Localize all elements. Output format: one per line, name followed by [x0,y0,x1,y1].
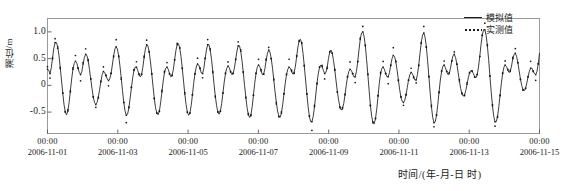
legend-label-measured: 实测值 [486,24,513,36]
x-tick-time: 00:00 [8,136,88,147]
legend-label-simulated: 模拟值 [486,12,513,24]
x-tick-label: 00:002006-11-09 [289,136,369,158]
x-tick-label: 00:002006-11-07 [218,136,298,158]
x-tick-date: 2006-11-07 [218,147,298,158]
x-tick-time: 00:00 [500,136,568,147]
x-tick-date: 2006-11-01 [8,147,88,158]
x-tick-date: 2006-11-13 [429,147,509,158]
x-tick-label: 00:002006-11-15 [500,136,568,158]
x-tick-date: 2006-11-03 [78,147,158,158]
x-tick-time: 00:00 [218,136,298,147]
legend-dotted-line-icon [464,25,482,35]
x-tick-date: 2006-11-11 [359,147,439,158]
x-tick-label: 00:002006-11-05 [148,136,228,158]
tide-level-chart: 潮位/m 1.00.50-0.5 00:002006-11-0100:00200… [0,0,568,191]
x-tick-date: 2006-11-15 [500,147,568,158]
x-tick-label: 00:002006-11-03 [78,136,158,158]
x-tick-label: 00:002006-11-13 [429,136,509,158]
x-tick-date: 2006-11-09 [289,147,369,158]
x-tick-time: 00:00 [289,136,369,147]
x-tick-time: 00:00 [148,136,228,147]
x-tick-label: 00:002006-11-01 [8,136,88,158]
x-tick-time: 00:00 [78,136,158,147]
x-tick-label: 00:002006-11-11 [359,136,439,158]
x-tick-time: 00:00 [429,136,509,147]
x-tick-date: 2006-11-05 [148,147,228,158]
legend-item-simulated: 模拟值 [464,12,513,24]
legend-solid-line-icon [464,13,482,23]
x-tick-time: 00:00 [359,136,439,147]
legend-item-measured: 实测值 [464,24,513,36]
x-axis-title: 时间/(年-月-日 时) [398,166,481,181]
chart-legend: 模拟值 实测值 [464,12,513,36]
